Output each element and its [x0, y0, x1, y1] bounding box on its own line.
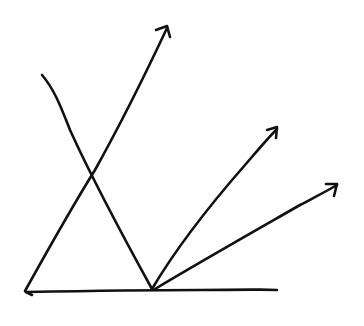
baseline — [26, 290, 277, 295]
low-arrow — [155, 184, 337, 289]
sketch-canvas — [0, 0, 364, 326]
incident-line — [42, 75, 152, 289]
middle-arrow — [152, 127, 277, 289]
long-arrow — [25, 26, 170, 291]
